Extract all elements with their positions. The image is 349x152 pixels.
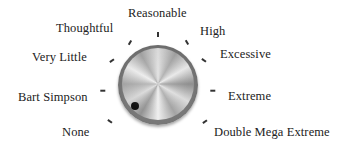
tick-mark [128, 40, 132, 45]
tick-mark [185, 40, 189, 45]
tick-mark [100, 90, 105, 92]
dial-label-bart-simpson[interactable]: Bart Simpson [18, 90, 88, 104]
dial-label-very-little[interactable]: Very Little [32, 50, 87, 64]
dial-label-double-mega-extreme[interactable]: Double Mega Extreme [214, 125, 330, 139]
tick-mark [202, 119, 207, 123]
dial-label-thoughtful[interactable]: Thoughtful [56, 21, 113, 35]
tick-mark [201, 58, 206, 62]
dial-label-excessive[interactable]: Excessive [220, 47, 271, 61]
knob-brushed-metal-face [122, 48, 194, 120]
tick-mark [109, 58, 114, 62]
tick-mark [210, 90, 215, 92]
knob-indicator-dot-icon [131, 102, 139, 110]
rotary-knob[interactable] [118, 45, 198, 125]
knob-scale-graphic: NoneBart SimpsonVery LittleThoughtfulRea… [0, 0, 349, 152]
dial-label-none[interactable]: None [62, 125, 89, 139]
dial-label-reasonable[interactable]: Reasonable [128, 6, 187, 20]
tick-mark [157, 32, 159, 37]
dial-label-high[interactable]: High [200, 24, 225, 38]
tick-mark [107, 119, 112, 123]
dial-label-extreme[interactable]: Extreme [228, 89, 271, 103]
